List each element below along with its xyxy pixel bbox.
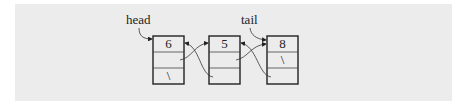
node-1: 6 \ [153,36,184,84]
node-3-value: 8 [279,36,286,51]
tail-label: tail [241,12,258,27]
node-3-next-null: \ [281,52,285,67]
head-pointer-arrow [139,28,152,39]
linked-list-diagram: head tail 6 \ 5 8 \ [0,0,467,111]
node-2: 5 [209,36,240,84]
tail-pointer-arrow [250,28,266,40]
node-1-value: 6 [165,36,172,51]
node-3: 8 \ [267,36,298,84]
node-2-value: 5 [221,36,228,51]
node-1-prev-null: \ [167,68,171,83]
head-label: head [126,12,151,27]
